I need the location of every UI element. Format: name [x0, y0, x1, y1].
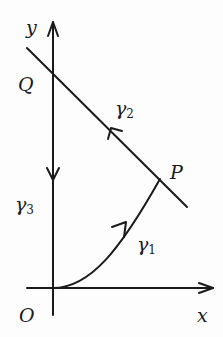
gamma1-subscript: 1 — [148, 243, 156, 257]
gamma2-label: γ2 — [115, 99, 134, 120]
gamma3-symbol: γ — [15, 193, 26, 215]
gamma1-symbol: γ — [137, 233, 148, 255]
point-q-label: Q — [18, 75, 34, 94]
y-axis-label: y — [26, 18, 37, 37]
x-axis-label: x — [197, 306, 208, 325]
gamma3-subscript: 3 — [26, 203, 34, 217]
gamma3-label: γ3 — [15, 195, 34, 216]
gamma2-arrow-icon — [108, 128, 122, 139]
diagram-graphics — [0, 0, 223, 337]
point-o-label: O — [19, 306, 35, 325]
gamma2-line — [27, 48, 187, 207]
gamma2-symbol: γ — [115, 97, 126, 119]
gamma1-label: γ1 — [137, 235, 156, 256]
gamma1-arrow-icon — [112, 222, 126, 237]
gamma2-subscript: 2 — [126, 107, 134, 121]
point-p-label: P — [170, 163, 183, 182]
contour-diagram: y x Q P O γ2 γ3 γ1 — [0, 0, 223, 337]
